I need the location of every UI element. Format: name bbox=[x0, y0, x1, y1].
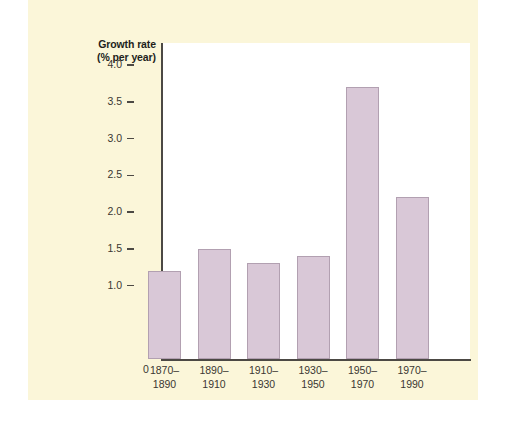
bar bbox=[247, 263, 280, 359]
bar bbox=[198, 249, 231, 359]
y-axis-tick bbox=[127, 248, 134, 250]
bar bbox=[148, 271, 181, 359]
figure-panel: Growth rate (% per year) 1.01.52.02.53.0… bbox=[28, 0, 478, 400]
category-label-line1: 1970– bbox=[382, 363, 442, 377]
y-axis-tick bbox=[127, 175, 134, 177]
category-label-line2: 1990 bbox=[382, 377, 442, 391]
y-axis-tick-label: 1.5 bbox=[82, 242, 122, 254]
y-axis-tick bbox=[127, 211, 134, 213]
bar bbox=[297, 256, 330, 359]
y-axis-title-line1: Growth rate bbox=[68, 38, 156, 51]
y-axis-tick-label: 4.0 bbox=[82, 58, 122, 70]
y-axis-tick-label: 3.0 bbox=[82, 132, 122, 144]
y-axis-tick bbox=[127, 285, 134, 287]
chart-figure: Growth rate (% per year) 1.01.52.02.53.0… bbox=[0, 0, 505, 427]
x-axis-line bbox=[161, 359, 471, 361]
y-axis-tick-label: 3.5 bbox=[82, 95, 122, 107]
y-axis-tick bbox=[127, 138, 134, 140]
origin-label: 0 bbox=[131, 363, 161, 375]
bar bbox=[396, 197, 429, 359]
y-axis-tick bbox=[127, 101, 134, 103]
y-axis-tick-label: 1.0 bbox=[82, 279, 122, 291]
bar bbox=[346, 87, 379, 359]
y-axis-tick-label: 2.0 bbox=[82, 205, 122, 217]
x-axis-category-label: 1970–1990 bbox=[382, 363, 442, 391]
y-axis-tick-label: 2.5 bbox=[82, 168, 122, 180]
y-axis-tick bbox=[127, 64, 134, 66]
